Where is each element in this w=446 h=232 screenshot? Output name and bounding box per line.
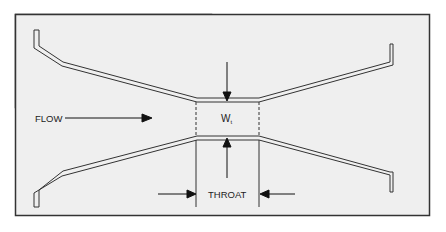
venturi-diagram: FLOW Wt THROAT (0, 0, 446, 232)
throat-label: THROAT (208, 189, 247, 200)
flow-label: FLOW (35, 113, 62, 124)
